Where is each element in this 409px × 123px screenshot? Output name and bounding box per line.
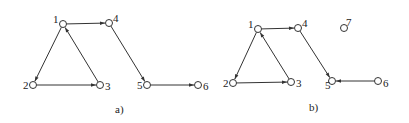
node-1 bbox=[255, 26, 262, 33]
node-label-5: 5 bbox=[137, 79, 143, 91]
node-5 bbox=[144, 82, 151, 89]
node-6 bbox=[375, 78, 382, 85]
caption-b: b) bbox=[309, 101, 319, 114]
node-label-5: 5 bbox=[325, 79, 331, 91]
node-4 bbox=[106, 20, 113, 27]
node-3 bbox=[288, 79, 295, 86]
node-2 bbox=[230, 80, 237, 87]
edge-1-to-4 bbox=[261, 28, 294, 29]
node-label-2: 2 bbox=[23, 79, 29, 91]
edge-2-to-3 bbox=[236, 82, 287, 83]
edge-4-to-5 bbox=[300, 31, 330, 78]
edge-4-to-5 bbox=[111, 26, 145, 82]
node-2 bbox=[30, 82, 37, 89]
graph-b: 1234567 bbox=[223, 16, 389, 91]
edge-3-to-1 bbox=[260, 32, 289, 79]
edge-3-to-1 bbox=[65, 27, 98, 82]
graph-a: 123456 bbox=[23, 12, 209, 92]
node-label-6: 6 bbox=[203, 80, 209, 92]
node-label-1: 1 bbox=[53, 13, 59, 25]
directed-graphs-figure: 123456 1234567 a) b) bbox=[0, 0, 409, 123]
edge-1-to-2 bbox=[35, 27, 62, 81]
edge-1-to-4 bbox=[66, 23, 105, 24]
node-label-1: 1 bbox=[248, 18, 254, 30]
node-1 bbox=[60, 21, 67, 28]
node-label-4: 4 bbox=[302, 17, 308, 29]
node-label-4: 4 bbox=[113, 12, 119, 24]
node-6 bbox=[195, 82, 202, 89]
node-label-3: 3 bbox=[105, 80, 111, 92]
node-label-7: 7 bbox=[346, 16, 352, 28]
edge-1-to-2 bbox=[235, 32, 257, 79]
node-label-6: 6 bbox=[383, 77, 389, 89]
node-label-2: 2 bbox=[223, 77, 229, 89]
node-label-3: 3 bbox=[296, 77, 302, 89]
node-4 bbox=[295, 25, 302, 32]
caption-a: a) bbox=[115, 103, 124, 116]
node-3 bbox=[97, 82, 104, 89]
